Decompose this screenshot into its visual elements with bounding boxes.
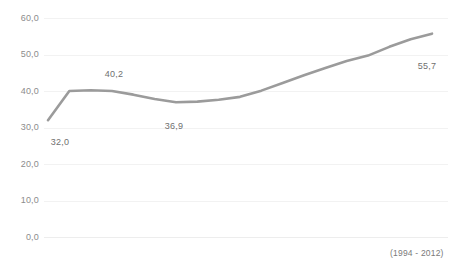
chart-caption: (1994 - 2012) [390,248,444,258]
series-line [44,18,448,237]
y-axis-tick-label-50: 50,0 [0,50,39,59]
line-chart: 60,0 50,0 40,0 30,0 20,0 10,0 0,0 32,0 4… [0,0,460,277]
y-axis-tick-label-0: 0,0 [0,233,39,242]
y-axis-tick-label-60: 60,0 [0,14,39,23]
clipped-chart-title [0,0,460,9]
y-axis-tick-label-30: 30,0 [0,123,39,132]
data-label-1996: 40,2 [105,70,123,79]
gridline-0-baseline [44,237,448,238]
data-label-1994: 32,0 [51,138,69,147]
data-label-2012: 55,7 [418,62,436,71]
plot-area [44,18,448,237]
data-label-2000: 36,9 [165,122,183,131]
y-axis-tick-label-20: 20,0 [0,160,39,169]
y-axis-tick-label-10: 10,0 [0,196,39,205]
y-axis-tick-label-40: 40,0 [0,87,39,96]
